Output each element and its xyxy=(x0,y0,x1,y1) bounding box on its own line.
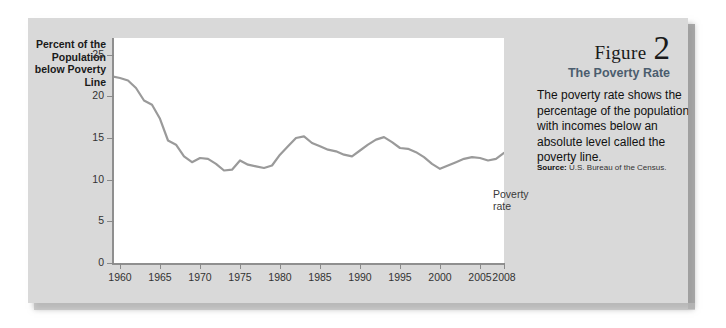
caption-panel: Figure 2 The Poverty Rate The poverty ra… xyxy=(515,18,688,303)
source-text: U.S. Bureau of the Census. xyxy=(569,163,666,172)
figure-number: Figure 2 xyxy=(594,32,670,65)
x-axis-line xyxy=(112,263,505,265)
x-tick-mark xyxy=(480,263,481,269)
caption-title: The Poverty Rate xyxy=(568,66,670,80)
figure-numeral: 2 xyxy=(654,32,671,65)
figure-word: Figure xyxy=(594,42,646,64)
y-tick-label: 0 xyxy=(78,256,104,268)
x-tick-label: 1970 xyxy=(180,271,220,283)
y-tick-mark xyxy=(107,263,114,264)
y-tick-label: 15 xyxy=(78,131,104,143)
x-tick-label: 1995 xyxy=(380,271,420,283)
plot-area: Poverty rate xyxy=(112,38,504,263)
y-tick-mark xyxy=(107,138,114,139)
x-tick-label: 1965 xyxy=(140,271,180,283)
x-tick-mark xyxy=(360,263,361,269)
x-tick-mark xyxy=(280,263,281,269)
x-tick-label: 1975 xyxy=(220,271,260,283)
source-label: Source: xyxy=(537,163,567,172)
y-tick-mark xyxy=(107,180,114,181)
y-tick-label: 10 xyxy=(78,173,104,185)
x-tick-label: 1985 xyxy=(300,271,340,283)
x-tick-mark xyxy=(320,263,321,269)
x-tick-label: 2000 xyxy=(420,271,460,283)
x-tick-mark xyxy=(240,263,241,269)
y-tick-mark xyxy=(107,55,114,56)
y-axis-title: Percent of the Population below Poverty … xyxy=(30,38,106,88)
x-tick-mark xyxy=(160,263,161,269)
x-tick-mark xyxy=(120,263,121,269)
y-axis-line xyxy=(112,38,114,264)
x-tick-label: 1980 xyxy=(260,271,300,283)
x-tick-mark xyxy=(400,263,401,269)
figure-shadow-right xyxy=(688,24,695,309)
y-tick-mark xyxy=(107,221,114,222)
y-tick-label: 25 xyxy=(78,48,104,60)
x-tick-label: 1990 xyxy=(340,271,380,283)
caption-body: The poverty rate shows the percentage of… xyxy=(537,88,692,166)
figure-box: Percent of the Population below Poverty … xyxy=(28,18,688,303)
chart-panel: Percent of the Population below Poverty … xyxy=(28,18,508,303)
x-tick-mark xyxy=(200,263,201,269)
poverty-rate-line xyxy=(112,38,504,263)
y-tick-label: 20 xyxy=(78,89,104,101)
caption-source: Source: U.S. Bureau of the Census. xyxy=(537,163,702,172)
x-tick-mark xyxy=(440,263,441,269)
x-tick-mark xyxy=(504,263,505,269)
x-tick-label: 1960 xyxy=(100,271,140,283)
y-tick-label: 5 xyxy=(78,214,104,226)
y-tick-mark xyxy=(107,96,114,97)
figure-shadow-bottom xyxy=(34,303,695,310)
